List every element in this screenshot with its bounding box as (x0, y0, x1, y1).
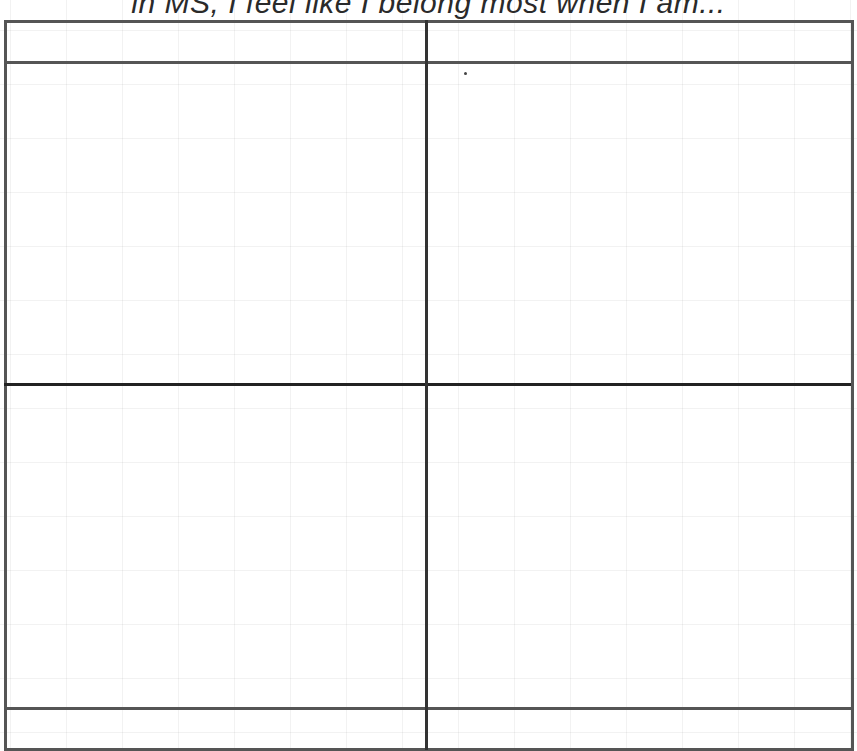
header-cell-left[interactable] (7, 23, 425, 61)
footer-cell-right[interactable] (428, 710, 848, 745)
worksheet-title: in MS, I feel like I belong most when I … (0, 0, 857, 16)
body-cell-bottom-right[interactable] (428, 386, 848, 707)
stray-mark (464, 72, 467, 75)
body-cell-top-left[interactable] (7, 64, 425, 383)
footer-cell-left[interactable] (7, 710, 425, 745)
body-cell-bottom-left[interactable] (7, 386, 425, 707)
header-cell-right[interactable] (428, 23, 848, 61)
body-cell-top-right[interactable] (428, 64, 848, 383)
